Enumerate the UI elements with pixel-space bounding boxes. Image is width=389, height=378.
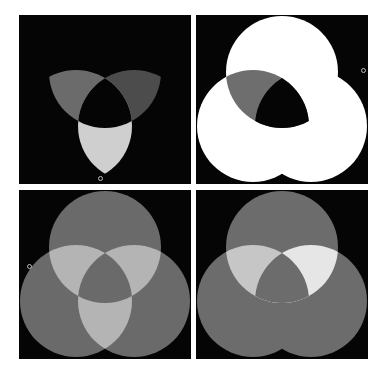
ring-marker-bottom-left — [27, 264, 32, 269]
venn-diagram-pairwise-intersections — [19, 15, 191, 184]
venn-panel-top-right — [196, 15, 368, 184]
venn-diagram-symmetric — [19, 190, 191, 359]
ring-marker-top-left — [98, 176, 103, 181]
venn-panel-bottom-right — [196, 190, 368, 359]
venn-panel-bottom-left — [19, 190, 191, 359]
ring-marker-top-right — [361, 68, 366, 73]
venn-panel-top-left — [19, 15, 191, 184]
venn-diagram-top-lenses — [196, 190, 368, 359]
venn-diagram-union — [196, 15, 368, 184]
